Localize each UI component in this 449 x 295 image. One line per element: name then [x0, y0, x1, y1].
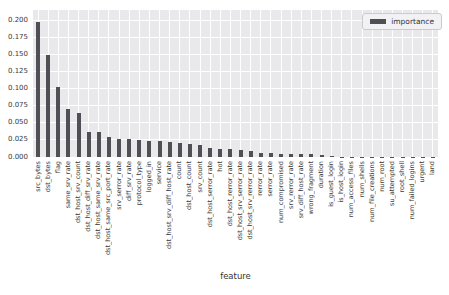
bar-same_srv_rate [66, 109, 70, 157]
bar-su_attempted [390, 157, 394, 158]
x-tick-label-su_attempted: su_attempted [389, 161, 396, 206]
bar-dst_host_srv_count [77, 113, 81, 157]
gridline-vertical [372, 10, 373, 157]
x-tick-label-dst_bytes: dst_bytes [45, 161, 52, 192]
x-tick-label-root_shell: root_shell [399, 161, 406, 192]
legend: importance [362, 13, 442, 30]
x-tick-label-hot: hot [217, 161, 224, 172]
bar-root_shell [401, 157, 405, 158]
gridline-vertical [230, 10, 231, 157]
bar-is_host_login [340, 157, 344, 158]
y-tick-label: 0.050 [0, 118, 28, 127]
gridline-horizontal [33, 139, 438, 140]
legend-label: importance [391, 17, 434, 26]
x-tick-label-srv_count: srv_count [197, 161, 204, 193]
bar-service [158, 141, 162, 157]
x-tick-label-srv_diff_host_rate: srv_diff_host_rate [298, 161, 305, 218]
bar-protocol_type [137, 140, 141, 157]
bar-srv_rerror_rate [289, 154, 293, 157]
bar-srv_count [198, 145, 202, 157]
x-tick-label-dst_host_rerror_rate: dst_host_rerror_rate [227, 161, 234, 226]
legend-swatch-icon [370, 19, 386, 24]
gridline-vertical [220, 10, 221, 157]
gridline-vertical [362, 10, 363, 157]
x-tick-label-dst_host_diff_srv_rate: dst_host_diff_srv_rate [85, 161, 92, 232]
gridline-vertical [260, 10, 261, 157]
x-tick-label-num_access_files: num_access_files [348, 161, 355, 217]
x-tick-label-count: count [176, 161, 183, 179]
gridline-vertical [169, 10, 170, 157]
x-tick-label-land: land [429, 161, 436, 175]
gridline-vertical [210, 10, 211, 157]
y-tick-label: 0.075 [0, 101, 28, 110]
gridline-vertical [311, 10, 312, 157]
plot-area [33, 10, 438, 157]
gridline-vertical [291, 10, 292, 157]
bar-diff_srv_rate [127, 139, 131, 157]
x-tick-label-protocol_type: protocol_type [136, 161, 143, 205]
x-tick-label-flag: flag [55, 161, 62, 173]
gridline-horizontal [33, 37, 438, 38]
bar-land [431, 157, 435, 158]
x-tick-label-dst_host_srv_serror_rate: dst_host_srv_serror_rate [237, 161, 244, 240]
bar-is_guest_login [330, 156, 334, 157]
gridline-horizontal [33, 88, 438, 89]
x-tick-label-dst_host_srv_rerror_rate: dst_host_srv_rerror_rate [247, 161, 254, 239]
gridline-vertical [108, 10, 109, 157]
y-tick-label: 0.125 [0, 67, 28, 76]
gridline-vertical [351, 10, 352, 157]
y-tick-label: 0.025 [0, 135, 28, 144]
bar-num_shells [360, 157, 364, 158]
y-tick-label: 0.175 [0, 33, 28, 42]
bar-dst_host_same_srv_rate [97, 132, 101, 157]
x-tick-label-wrong_fragment: wrong_fragment [308, 161, 315, 214]
x-tick-label-duration: duration [318, 161, 325, 188]
x-tick-label-num_compromised: num_compromised [278, 161, 285, 223]
y-tick-label: 0.200 [0, 16, 28, 25]
gridline-vertical [189, 10, 190, 157]
gridline-vertical [422, 10, 423, 157]
x-tick-label-service: service [156, 161, 163, 184]
gridline-vertical [250, 10, 251, 157]
gridline-vertical [281, 10, 282, 157]
bar-duration [320, 155, 324, 157]
x-tick-label-num_file_creations: num_file_creations [369, 161, 376, 222]
y-tick-label: 0.150 [0, 50, 28, 59]
gridline-vertical [392, 10, 393, 157]
x-tick-label-num_root: num_root [379, 161, 386, 192]
gridline-horizontal [33, 54, 438, 55]
x-tick-label-dst_host_srv_count: dst_host_srv_count [75, 161, 82, 223]
bar-dst_host_same_src_port_rate [107, 137, 111, 157]
bar-dst_bytes [46, 55, 50, 157]
bar-dst_host_count [188, 144, 192, 157]
bar-srv_diff_host_rate [299, 154, 303, 157]
bar-num_compromised [279, 154, 283, 157]
x-tick-label-diff_srv_rate: diff_srv_rate [126, 161, 133, 201]
bar-num_root [380, 157, 384, 158]
bar-src_bytes [36, 22, 40, 157]
gridline-vertical [240, 10, 241, 157]
x-tick-label-dst_host_count: dst_host_count [186, 161, 193, 210]
gridline-vertical [179, 10, 180, 157]
x-tick-label-num_failed_logins: num_failed_logins [409, 161, 416, 219]
bar-num_file_creations [370, 157, 374, 158]
gridline-vertical [301, 10, 302, 157]
gridline-horizontal [33, 71, 438, 72]
bar-srv_serror_rate [117, 139, 121, 157]
gridline-vertical [129, 10, 130, 157]
gridline-vertical [200, 10, 201, 157]
bar-logged_in [147, 141, 151, 157]
gridline-vertical [331, 10, 332, 157]
gridline-vertical [432, 10, 433, 157]
gridline-vertical [149, 10, 150, 157]
bar-dst_host_srv_rerror_rate [249, 151, 253, 157]
gridline-horizontal [33, 105, 438, 106]
bar-dst_host_srv_serror_rate [239, 150, 243, 158]
gridline-vertical [402, 10, 403, 157]
gridline-vertical [270, 10, 271, 157]
bar-dst_host_diff_srv_rate [87, 132, 91, 157]
x-tick-label-urgent: urgent [419, 161, 426, 182]
x-tick-label-num_shells: num_shells [359, 161, 366, 197]
gridline-horizontal [33, 157, 438, 158]
bar-dst_host_serror_rate [208, 148, 212, 157]
